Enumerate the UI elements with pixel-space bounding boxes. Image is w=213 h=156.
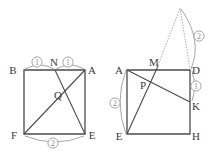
measure-badge-DK: 1: [191, 81, 201, 91]
point-label-N: N: [50, 56, 58, 68]
measure-badge-BN-label: 1: [35, 58, 39, 67]
segment-A-K: [127, 70, 190, 102]
measure-badge-apex-D-label: 2: [197, 32, 201, 41]
measure-badge-DK-label: 1: [194, 82, 198, 91]
segment-N-E: [55, 70, 85, 134]
measure-badge-NA: 1: [63, 57, 73, 67]
arc-AE: [120, 70, 126, 134]
point-label-Q: Q: [54, 89, 62, 101]
vertex-label-E-right: E: [116, 130, 123, 142]
point-label-P: P: [140, 79, 146, 91]
vertex-label-A-right: A: [115, 64, 123, 76]
segment-A-F: [24, 70, 85, 134]
geometry-figure-container: 1 1 2 B A E F N Q: [0, 0, 213, 156]
vertex-label-E-left: E: [89, 129, 96, 141]
arc-apex-D: [181, 9, 195, 69]
dotted-segment-apex-D: [180, 8, 190, 69]
geometry-figure-svg: 1 1 2 B A E F N Q: [0, 0, 213, 156]
vertex-label-F: F: [11, 129, 17, 141]
right-diagram-group: 2 1 2 A D H E M K P: [110, 8, 204, 142]
measure-badge-apex-D: 2: [194, 31, 204, 41]
right-square-outline: [127, 70, 190, 134]
point-label-M: M: [149, 56, 159, 68]
measure-badge-NA-label: 1: [66, 58, 70, 67]
segment-E-M: [127, 66, 158, 134]
measure-badge-FE: 2: [48, 138, 58, 148]
measure-badge-AE: 2: [110, 98, 120, 108]
measure-badge-FE-label: 2: [51, 139, 55, 148]
dotted-segment-M-apex: [157, 8, 180, 68]
measure-badge-AE-label: 2: [113, 99, 117, 108]
vertex-label-D: D: [192, 64, 200, 76]
left-diagram-group: 1 1 2 B A E F N Q: [9, 56, 96, 148]
vertex-label-A-left: A: [88, 64, 96, 76]
vertex-label-B: B: [9, 64, 16, 76]
point-label-K: K: [192, 100, 200, 112]
measure-badge-BN: 1: [32, 57, 42, 67]
vertex-label-H: H: [192, 130, 200, 142]
